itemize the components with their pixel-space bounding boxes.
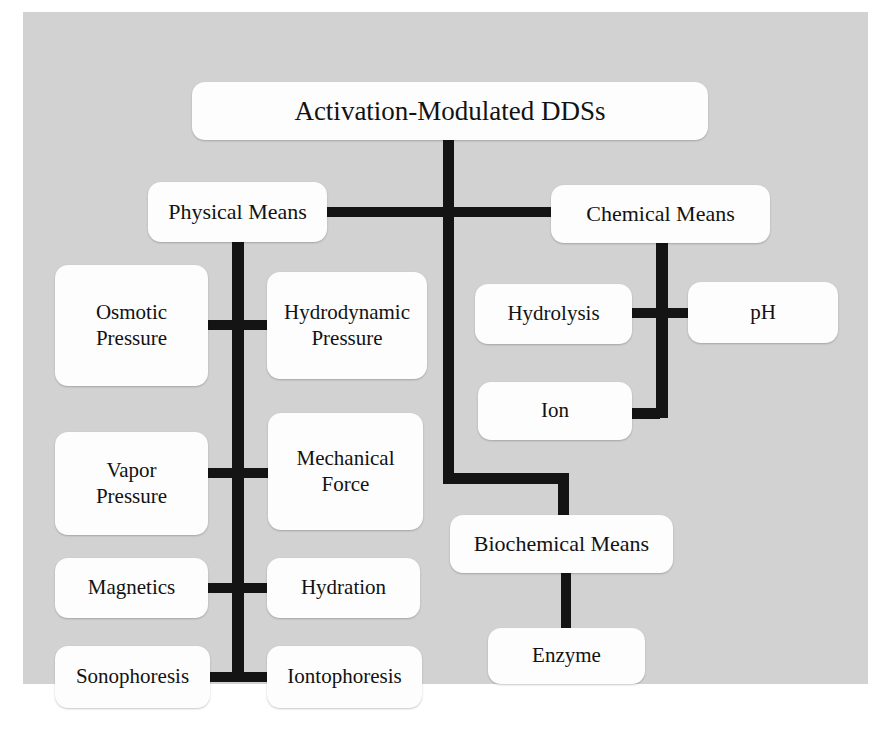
- node-vapor-pressure[interactable]: Vapor Pressure: [55, 432, 208, 535]
- node-enzyme[interactable]: Enzyme: [488, 628, 645, 684]
- connector-hydrodynamic-stub: [242, 320, 270, 330]
- node-sonophoresis-label: Sonophoresis: [76, 664, 189, 690]
- node-osmotic-pressure-label-line2: Pressure: [96, 326, 167, 352]
- connector-hydrolysis-stub: [630, 308, 658, 318]
- node-biochemical-means-label: Biochemical Means: [474, 531, 649, 558]
- node-hydrodynamic-pressure[interactable]: Hydrodynamic Pressure: [267, 272, 427, 379]
- connector-mechanical-stub: [242, 468, 270, 478]
- node-iontophoresis[interactable]: Iontophoresis: [267, 646, 422, 708]
- diagram-canvas: Activation-Modulated DDSs Physical Means…: [0, 0, 886, 737]
- node-hydrolysis[interactable]: Hydrolysis: [475, 284, 632, 344]
- connector-chemical-spine: [656, 243, 668, 418]
- connector-hydration-stub: [242, 583, 270, 593]
- connector-magnetics-stub: [208, 583, 234, 593]
- node-vapor-pressure-label-line1: Vapor: [106, 458, 156, 484]
- node-osmotic-pressure[interactable]: Osmotic Pressure: [55, 265, 208, 386]
- node-hydrodynamic-pressure-label-line1: Hydrodynamic: [284, 300, 410, 326]
- node-hydrodynamic-pressure-label-line2: Pressure: [311, 326, 382, 352]
- connector-sonophoresis-stub: [208, 672, 234, 682]
- connector-biochemical-vertical: [558, 473, 569, 518]
- node-ion[interactable]: Ion: [478, 382, 632, 440]
- connector-level1-horizontal: [327, 207, 552, 217]
- connector-osmotic-stub: [208, 320, 234, 330]
- node-chemical-means-label: Chemical Means: [586, 201, 734, 228]
- node-vapor-pressure-label-line2: Pressure: [96, 484, 167, 510]
- connector-ion-stub: [628, 408, 660, 419]
- node-root-label: Activation-Modulated DDSs: [294, 95, 605, 128]
- node-chemical-means[interactable]: Chemical Means: [551, 185, 770, 243]
- node-ion-label: Ion: [541, 398, 569, 424]
- node-mechanical-force[interactable]: Mechanical Force: [268, 413, 423, 530]
- node-ph-label: pH: [750, 300, 776, 326]
- node-hydration-label: Hydration: [301, 575, 386, 601]
- node-enzyme-label: Enzyme: [532, 643, 601, 669]
- node-hydrolysis-label: Hydrolysis: [507, 301, 599, 327]
- connector-iontophoresis-stub: [242, 672, 270, 682]
- connector-vapor-stub: [208, 468, 234, 478]
- node-hydration[interactable]: Hydration: [267, 558, 420, 618]
- node-physical-means-label: Physical Means: [168, 199, 307, 226]
- node-physical-means[interactable]: Physical Means: [148, 182, 327, 242]
- node-magnetics[interactable]: Magnetics: [55, 558, 208, 618]
- node-sonophoresis[interactable]: Sonophoresis: [55, 646, 210, 708]
- node-mechanical-force-label-line2: Force: [322, 472, 370, 498]
- node-magnetics-label: Magnetics: [88, 575, 175, 601]
- connector-root-vertical: [443, 140, 454, 484]
- connector-biochemical-horizontal: [443, 473, 569, 484]
- connector-physical-spine: [232, 242, 244, 682]
- node-ph[interactable]: pH: [688, 282, 838, 343]
- node-root[interactable]: Activation-Modulated DDSs: [192, 82, 708, 140]
- connector-enzyme-vertical: [561, 573, 571, 630]
- node-osmotic-pressure-label-line1: Osmotic: [96, 300, 167, 326]
- node-iontophoresis-label: Iontophoresis: [287, 664, 401, 690]
- node-biochemical-means[interactable]: Biochemical Means: [450, 515, 673, 573]
- node-mechanical-force-label-line1: Mechanical: [297, 446, 395, 472]
